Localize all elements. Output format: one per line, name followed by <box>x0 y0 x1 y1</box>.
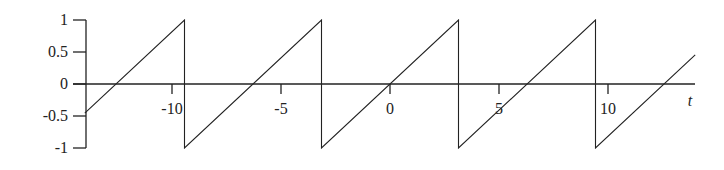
x-tick-label: 5 <box>495 100 503 117</box>
y-tick-label: 0.5 <box>48 43 68 60</box>
sawtooth-chart: 10.50-0.5-1-10-50510t <box>0 0 724 170</box>
x-tick-label: -10 <box>161 100 182 117</box>
x-tick-label: 0 <box>386 100 394 117</box>
x-axis-title: t <box>688 92 693 109</box>
x-tick-label: 10 <box>600 100 616 117</box>
y-tick-label: 1 <box>60 11 68 28</box>
x-tick-label: -5 <box>274 100 287 117</box>
y-tick-label: -1 <box>55 139 68 156</box>
y-tick-label: 0 <box>60 75 68 92</box>
y-tick-label: -0.5 <box>43 107 68 124</box>
